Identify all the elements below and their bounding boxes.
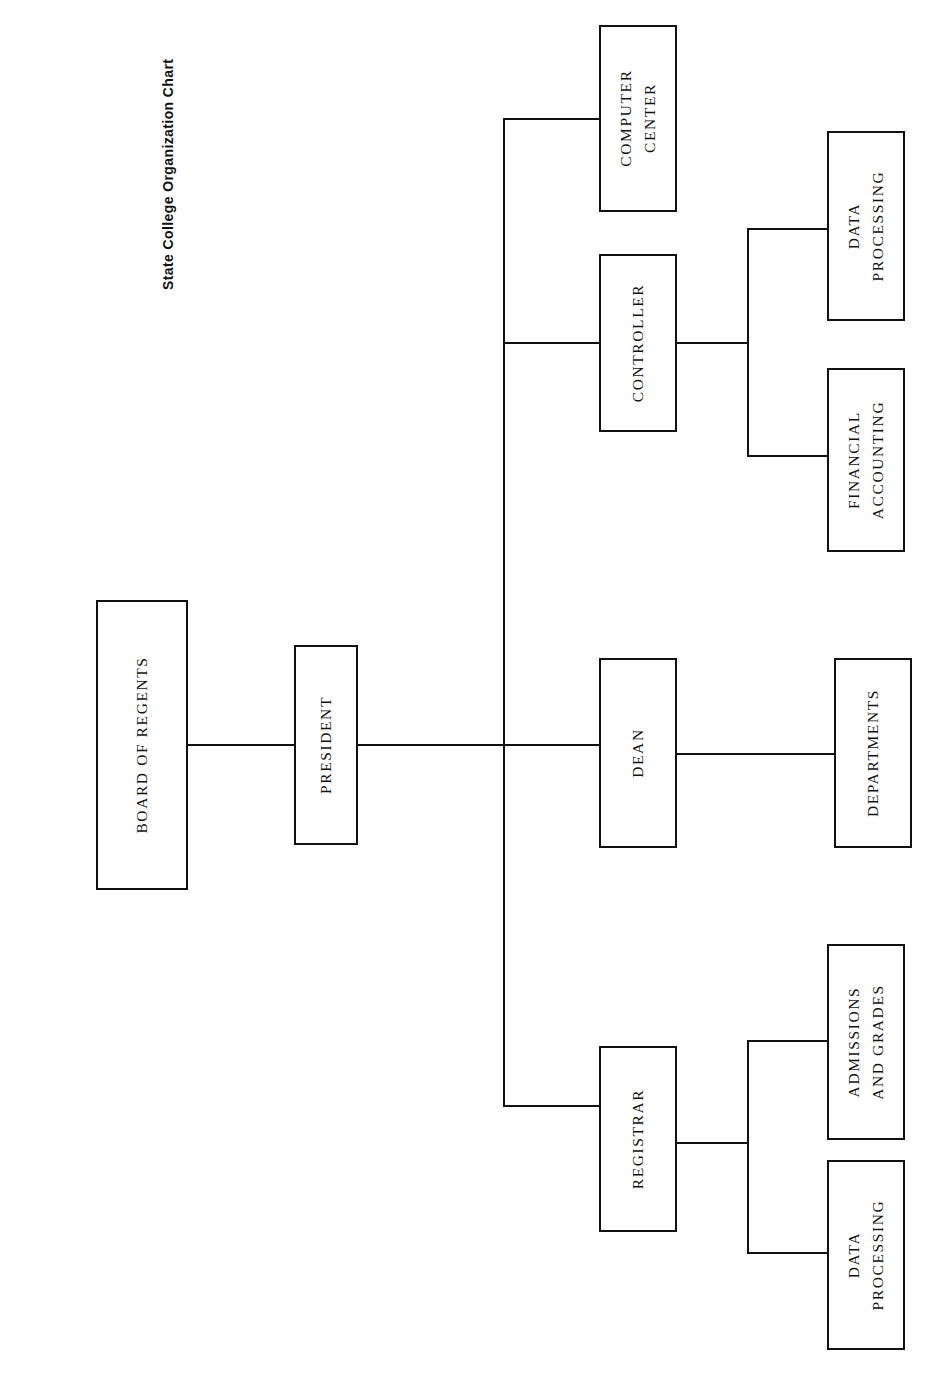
node-departments[interactable]: DEPARTMENTS xyxy=(834,658,912,848)
node-departments-label: DEPARTMENTS xyxy=(861,689,885,817)
node-financial-accounting[interactable]: FINANCIAL ACCOUNTING xyxy=(827,368,905,552)
node-data-processing-controller-label: DATA PROCESSING xyxy=(842,171,890,282)
connector-registrar-to-admissions xyxy=(747,1040,827,1042)
node-board-of-regents[interactable]: BOARD OF REGENTS xyxy=(96,600,188,890)
organization-chart-canvas: State College Organization Chart BOARD O… xyxy=(0,0,931,1394)
connector-president-to-bus xyxy=(358,744,504,746)
node-data-processing-registrar[interactable]: DATA PROCESSING xyxy=(827,1160,905,1350)
connector-controller-to-financial-accounting xyxy=(747,455,827,457)
node-controller[interactable]: CONTROLLER xyxy=(599,254,677,432)
node-financial-accounting-label: FINANCIAL ACCOUNTING xyxy=(842,401,890,519)
connector-dean-to-departments xyxy=(676,753,834,755)
connector-registrar-subbus xyxy=(747,1040,749,1253)
connector-registrar-to-subbus xyxy=(676,1142,748,1144)
node-computer-center-label: COMPUTER CENTER xyxy=(614,70,662,167)
node-controller-label: CONTROLLER xyxy=(626,284,650,402)
connector-main-bus xyxy=(503,118,505,1106)
connector-controller-subbus xyxy=(747,228,749,456)
node-president[interactable]: PRESIDENT xyxy=(294,645,358,845)
node-admissions-and-grades[interactable]: ADMISSIONS AND GRADES xyxy=(827,944,905,1140)
connector-board-to-president xyxy=(188,744,296,746)
connector-controller-to-data-processing xyxy=(747,228,827,230)
node-president-label: PRESIDENT xyxy=(314,696,338,794)
node-data-processing-registrar-label: DATA PROCESSING xyxy=(842,1200,890,1311)
connector-registrar-to-data-processing xyxy=(747,1252,827,1254)
node-registrar-label: REGISTRAR xyxy=(626,1089,650,1190)
node-board-of-regents-label: BOARD OF REGENTS xyxy=(130,656,154,833)
connector-bus-to-registrar xyxy=(503,1105,599,1107)
node-computer-center[interactable]: COMPUTER CENTER xyxy=(599,25,677,212)
page-title: State College Organization Chart xyxy=(160,59,176,290)
connector-bus-to-controller xyxy=(503,342,599,344)
connector-bus-to-computer-center xyxy=(503,118,599,120)
connector-controller-to-subbus xyxy=(676,342,748,344)
node-data-processing-controller[interactable]: DATA PROCESSING xyxy=(827,131,905,321)
node-registrar[interactable]: REGISTRAR xyxy=(599,1046,677,1232)
node-admissions-and-grades-label: ADMISSIONS AND GRADES xyxy=(842,984,890,1099)
node-dean-label: DEAN xyxy=(626,728,650,777)
node-dean[interactable]: DEAN xyxy=(599,658,677,848)
connector-bus-to-dean xyxy=(503,744,599,746)
